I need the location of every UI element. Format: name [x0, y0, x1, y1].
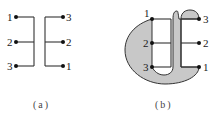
- terminal-dot: [150, 41, 154, 45]
- terminal-label: 2: [203, 37, 209, 49]
- figure-a-right-bracket: [45, 17, 63, 66]
- terminal-dot: [61, 15, 65, 19]
- shaded-region: [125, 10, 199, 84]
- figure-a-left-bracket: [16, 17, 34, 66]
- terminal-dot: [14, 15, 18, 19]
- terminal-label: 3: [66, 11, 72, 23]
- terminal-dot: [150, 65, 154, 69]
- terminal-label: 1: [7, 11, 13, 23]
- terminal-dot: [197, 17, 201, 21]
- figure-b-left-bracket: [152, 19, 171, 67]
- figure-a: 1 2 3 3 2 1 (a): [7, 11, 72, 111]
- terminal-label: 1: [144, 7, 150, 19]
- terminal-dot: [14, 64, 18, 68]
- figure-b: 1 2 3 3 2 1 (b): [125, 7, 209, 111]
- diagram-canvas: 1 2 3 3 2 1 (a) 1 2: [0, 0, 214, 115]
- figure-b-right-bracket: [181, 19, 199, 67]
- terminal-label: 1: [203, 61, 209, 73]
- terminal-label: 3: [143, 61, 149, 73]
- terminal-dot: [61, 64, 65, 68]
- terminal-label: 3: [7, 60, 13, 72]
- terminal-label: 2: [66, 36, 72, 48]
- figure-caption: (b): [155, 99, 173, 111]
- terminal-label: 2: [7, 36, 13, 48]
- terminal-dot: [197, 41, 201, 45]
- figure-caption: (a): [33, 99, 50, 111]
- terminal-label: 1: [66, 60, 72, 72]
- terminal-label: 3: [203, 13, 209, 25]
- terminal-label: 2: [143, 37, 149, 49]
- terminal-dot: [14, 40, 18, 44]
- terminal-dot: [150, 17, 154, 21]
- terminal-dot: [197, 65, 201, 69]
- terminal-dot: [61, 40, 65, 44]
